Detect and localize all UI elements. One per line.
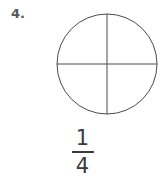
fraction-bar [72, 151, 94, 153]
item-number-label: 4. [11, 7, 25, 21]
fraction-label: 1 4 [0, 128, 165, 177]
circle-quadrants-svg [55, 10, 159, 120]
fraction-expression: 1 4 [72, 128, 94, 177]
worksheet-fraction-item: 4. 1 4 [0, 0, 165, 185]
fraction-denominator: 4 [72, 155, 93, 177]
fraction-numerator: 1 [72, 128, 93, 150]
fraction-circle-diagram [55, 10, 159, 120]
